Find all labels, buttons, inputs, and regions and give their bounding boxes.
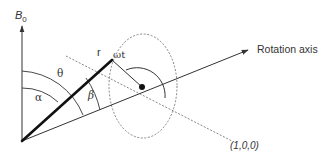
omega-t-label: ωt: [113, 49, 125, 60]
beta-label: β: [87, 89, 94, 101]
theta-label: θ: [57, 67, 63, 79]
rotation-axis-label: Rotation axis: [257, 43, 318, 55]
rotation-axis-arrow: [22, 50, 248, 141]
radius-line: [112, 60, 142, 87]
direction-label: (1,0,0): [230, 140, 259, 151]
omega-t-arc: [126, 68, 165, 98]
b0-subscript: 0: [22, 15, 27, 24]
axis-point-dot: [139, 84, 145, 90]
r-label: r: [97, 46, 101, 58]
rotation-geometry-diagram: B0 Rotation axis r θ α β ωt (1,0,0): [0, 0, 329, 163]
alpha-label: α: [35, 91, 42, 103]
b0-label: B0: [15, 9, 27, 24]
